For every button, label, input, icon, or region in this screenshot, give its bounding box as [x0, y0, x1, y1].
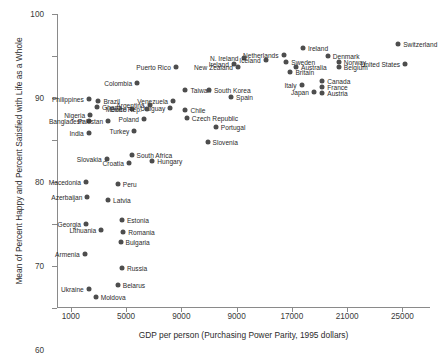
data-point[interactable] — [206, 87, 211, 92]
data-point-label: New Zealand — [194, 63, 233, 70]
data-point[interactable] — [168, 105, 173, 110]
y-axis-line — [57, 14, 58, 308]
data-point-label: Belarus — [123, 281, 145, 288]
y-tick-mark: 90 — [52, 56, 57, 57]
data-point-label: Czech Republic — [192, 115, 238, 122]
x-tick-label: 1000 — [62, 312, 80, 321]
data-point-label: Turkey — [109, 128, 129, 135]
data-point[interactable] — [144, 107, 149, 112]
data-point-label: Chile — [190, 106, 205, 113]
data-point[interactable] — [126, 161, 131, 166]
data-point[interactable] — [86, 131, 91, 136]
data-point[interactable] — [84, 180, 89, 185]
y-tick-mark: 100 — [52, 14, 57, 15]
data-point[interactable] — [119, 265, 124, 270]
data-point[interactable] — [82, 252, 87, 257]
data-point[interactable] — [119, 217, 124, 222]
y-tick-label: 80 — [35, 178, 44, 187]
data-point-label: Dom. Rep. — [110, 106, 142, 113]
data-point-label: Slovakia — [77, 156, 102, 163]
data-point[interactable] — [183, 87, 188, 92]
data-point[interactable] — [115, 282, 120, 287]
data-point-label: Lithuania — [69, 227, 96, 234]
data-point-label: Azerbaijan — [51, 194, 82, 201]
data-point-label: Macedonia — [49, 179, 81, 186]
data-point[interactable] — [129, 153, 134, 158]
data-point-label: Peru — [123, 180, 137, 187]
data-point[interactable] — [86, 287, 91, 292]
data-point[interactable] — [99, 228, 104, 233]
data-point-label: Armenia — [55, 251, 80, 258]
data-point-label: Slovenia — [213, 138, 238, 145]
data-point-label: Portugal — [221, 123, 246, 130]
data-point[interactable] — [284, 59, 289, 64]
x-tick-label: 17000 — [280, 312, 303, 321]
data-point[interactable] — [336, 65, 341, 70]
x-tick-label: 5000 — [117, 312, 135, 321]
data-point[interactable] — [281, 52, 286, 57]
data-point[interactable] — [121, 229, 126, 234]
data-point[interactable] — [336, 59, 341, 64]
y-tick-mark: 70 — [52, 140, 57, 141]
data-point[interactable] — [229, 95, 234, 100]
data-point[interactable] — [84, 222, 89, 227]
data-point[interactable] — [299, 83, 304, 88]
data-point[interactable] — [106, 119, 111, 124]
data-point-label: Colombia — [104, 80, 132, 87]
y-tick-mark: 50 — [52, 224, 57, 225]
data-point[interactable] — [263, 58, 268, 63]
data-point-label: Ireland — [308, 44, 328, 51]
data-point-label: Puerto Rico — [136, 63, 170, 70]
x-tick-label: 9000 — [172, 312, 190, 321]
data-point[interactable] — [96, 98, 101, 103]
data-point[interactable] — [205, 139, 210, 144]
data-point[interactable] — [142, 117, 147, 122]
data-point[interactable] — [171, 98, 176, 103]
data-point-label: Moldova — [101, 294, 126, 301]
data-point[interactable] — [320, 85, 325, 90]
y-tick-label: 90 — [35, 94, 44, 103]
data-point-label: Romania — [128, 228, 154, 235]
data-point[interactable] — [184, 116, 189, 121]
data-point[interactable] — [300, 45, 305, 50]
data-point[interactable] — [173, 64, 178, 69]
data-point[interactable] — [235, 64, 240, 69]
data-point[interactable] — [106, 197, 111, 202]
data-point[interactable] — [403, 62, 408, 67]
x-tick-label: 21000 — [336, 312, 359, 321]
data-point[interactable] — [115, 181, 120, 186]
x-axis-line — [57, 307, 430, 308]
y-tick-mark: 30 — [52, 308, 57, 309]
data-point-label: Austria — [327, 89, 348, 96]
data-point[interactable] — [132, 129, 137, 134]
data-point-label: Iceland — [239, 57, 260, 64]
scatter-chart: 30405060708090100 1000500090009000170002… — [0, 0, 445, 354]
y-tick-label: 100 — [30, 10, 44, 19]
data-point[interactable] — [213, 124, 218, 129]
data-point[interactable] — [183, 107, 188, 112]
data-point-label: Belgium — [344, 64, 368, 71]
data-point[interactable] — [325, 54, 330, 59]
data-point-label: Hungary — [157, 158, 182, 165]
data-point-label: India — [69, 130, 83, 137]
data-point-label: Switzerland — [403, 41, 437, 48]
data-point[interactable] — [95, 104, 100, 109]
y-tick-label: 60 — [35, 346, 44, 354]
data-point[interactable] — [396, 42, 401, 47]
data-point[interactable] — [86, 96, 91, 101]
data-point[interactable] — [93, 295, 98, 300]
data-point-label: South Korea — [214, 86, 251, 93]
data-point-label: Bulgaria — [126, 239, 150, 246]
y-tick-mark: 40 — [52, 266, 57, 267]
data-point[interactable] — [118, 240, 123, 245]
data-point-label: Poland — [118, 116, 139, 123]
data-point[interactable] — [150, 159, 155, 164]
data-point[interactable] — [135, 81, 140, 86]
data-point[interactable] — [320, 79, 325, 84]
data-point[interactable] — [85, 195, 90, 200]
data-point-label: Pakistan — [78, 118, 103, 125]
data-point[interactable] — [88, 112, 93, 117]
data-point[interactable] — [320, 90, 325, 95]
data-point[interactable] — [311, 90, 316, 95]
data-point[interactable] — [288, 69, 293, 74]
